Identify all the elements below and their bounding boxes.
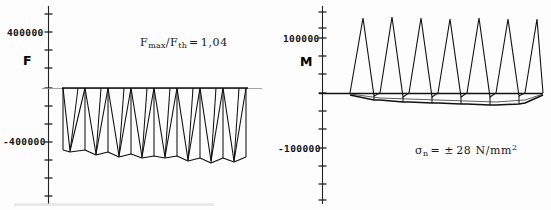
force-annot-var2: F: [170, 36, 178, 49]
force-ytick-label-bottom: -400000: [3, 136, 46, 147]
force-plot-panel: 400000 -400000 F Fmax/Fth=1,04: [0, 0, 275, 210]
moment-annot-plusminus: ±: [442, 144, 456, 157]
figure-root: 400000 -400000 F Fmax/Fth=1,04: [0, 0, 551, 210]
force-annotation: Fmax/Fth=1,04: [140, 36, 228, 50]
moment-spike-train: [350, 17, 543, 97]
moment-axis-symbol: M: [300, 54, 312, 69]
moment-overlay-trace: [350, 94, 543, 102]
moment-plot-panel: 100000 -100000 M σn=±28 N/mm2: [275, 0, 551, 210]
force-ytick-label-top: 400000: [7, 27, 44, 38]
force-annot-var1: F: [140, 36, 148, 49]
force-axis-symbol: F: [23, 53, 32, 68]
moment-annot-unit: N/mm: [475, 144, 512, 157]
force-annot-equals: =: [187, 36, 201, 49]
moment-annot-unit-exponent: 2: [512, 143, 518, 152]
moment-annotation: σn=±28 N/mm2: [415, 143, 518, 158]
force-annot-sub1: max: [148, 41, 165, 50]
force-annot-sub2: th: [178, 41, 187, 50]
force-annot-value: 1,04: [201, 36, 228, 49]
scan-smudge-left: [14, 203, 214, 206]
moment-annot-sigma: σ: [415, 144, 423, 157]
moment-annot-equals: =: [428, 144, 442, 157]
moment-ytick-label-bottom: -100000: [278, 143, 321, 154]
moment-ytick-label-top: 100000: [283, 33, 320, 44]
moment-plot-svg: [275, 0, 551, 210]
moment-annot-value: 28: [456, 144, 471, 157]
